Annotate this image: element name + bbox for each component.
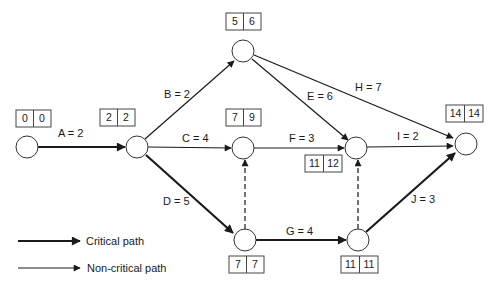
activity-J-label: J = 3 bbox=[411, 193, 435, 205]
node-2-early: 2 bbox=[106, 111, 112, 123]
legend-noncritical: Non-critical path bbox=[18, 262, 166, 274]
node-6-late: 12 bbox=[327, 157, 339, 169]
node-3-late: 6 bbox=[249, 15, 255, 27]
activity-G-label: G = 4 bbox=[286, 225, 313, 237]
node-1 bbox=[16, 136, 38, 158]
node-7 bbox=[347, 229, 369, 251]
activity-G: G = 4 bbox=[254, 225, 346, 240]
node-5-times: 7 7 bbox=[229, 256, 264, 273]
activity-C-label: C = 4 bbox=[182, 132, 209, 144]
node-8-times: 14 14 bbox=[446, 105, 483, 122]
activity-H-label: H = 7 bbox=[355, 81, 382, 93]
activity-I-label: I = 2 bbox=[397, 130, 419, 142]
node-3-times: 5 6 bbox=[226, 13, 261, 30]
node-5-late: 7 bbox=[252, 258, 258, 270]
activity-J: J = 3 bbox=[366, 153, 455, 232]
node-4-early: 7 bbox=[232, 111, 238, 123]
node-6-times: 11 12 bbox=[305, 155, 342, 172]
node-2-times: 2 2 bbox=[100, 109, 135, 126]
activity-E-label: E = 6 bbox=[307, 90, 333, 102]
activity-A-label: A = 2 bbox=[58, 127, 83, 139]
activity-B: B = 2 bbox=[145, 61, 234, 139]
node-1-times: 0 0 bbox=[16, 110, 51, 127]
network-diagram: A = 2 B = 2 C = 4 D = 5 E = 6 H = 7 F = … bbox=[0, 0, 497, 289]
activity-H: H = 7 bbox=[254, 55, 453, 138]
legend-critical-label: Critical path bbox=[86, 235, 144, 247]
node-1-early: 0 bbox=[22, 112, 28, 124]
node-6-early: 11 bbox=[309, 157, 320, 169]
node-4-times: 7 9 bbox=[226, 109, 261, 126]
activity-B-label: B = 2 bbox=[164, 88, 190, 100]
node-2 bbox=[126, 136, 148, 158]
node-5-early: 7 bbox=[235, 258, 241, 270]
activity-F-label: F = 3 bbox=[289, 132, 314, 144]
activity-D: D = 5 bbox=[146, 155, 233, 233]
node-2-late: 2 bbox=[123, 111, 129, 123]
activity-E: E = 6 bbox=[252, 59, 348, 140]
activity-C: C = 4 bbox=[148, 132, 231, 148]
node-4 bbox=[232, 137, 254, 159]
node-7-early: 11 bbox=[345, 258, 356, 270]
node-3 bbox=[232, 40, 254, 62]
legend-critical: Critical path bbox=[18, 235, 144, 247]
legend: Critical path Non-critical path bbox=[18, 235, 166, 274]
node-1-late: 0 bbox=[39, 112, 45, 124]
node-5 bbox=[234, 229, 256, 251]
activity-F: F = 3 bbox=[254, 132, 344, 148]
node-6 bbox=[345, 137, 367, 159]
activity-A: A = 2 bbox=[38, 127, 125, 147]
node-8 bbox=[455, 133, 477, 155]
node-8-early: 14 bbox=[450, 107, 462, 119]
node-4-late: 9 bbox=[249, 111, 255, 123]
node-3-early: 5 bbox=[232, 15, 238, 27]
node-8-late: 14 bbox=[468, 107, 480, 119]
node-7-times: 11 11 bbox=[341, 256, 378, 273]
node-7-late: 11 bbox=[364, 258, 375, 270]
activity-D-label: D = 5 bbox=[163, 195, 190, 207]
legend-noncritical-label: Non-critical path bbox=[87, 262, 166, 274]
